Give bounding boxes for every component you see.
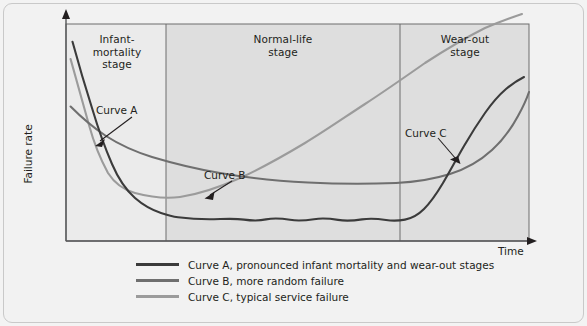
stage-label-wearout-line1: Wear-out <box>409 33 521 46</box>
stage-label-infant-line1: Infant- <box>76 33 158 46</box>
figure-container: Infant- mortality stage Normal-life stag… <box>0 0 587 326</box>
stage-label-normal-line2: stage <box>223 46 343 59</box>
stage-label-normal: Normal-life stage <box>223 33 343 58</box>
stage-label-infant: Infant- mortality stage <box>76 33 158 71</box>
annotation-curve-a: Curve A <box>96 104 138 116</box>
x-axis-label: Time <box>498 245 524 257</box>
y-axis-arrow-icon <box>62 9 70 19</box>
x-axis-arrow-icon <box>527 237 537 245</box>
legend-swatch-curve-a <box>136 263 179 265</box>
annotation-curve-b: Curve B <box>204 169 246 181</box>
legend-item-curve-c: Curve C, typical service failure <box>136 290 536 303</box>
stage-label-wearout: Wear-out stage <box>409 33 521 58</box>
annotation-curve-c: Curve C <box>405 127 447 139</box>
legend-item-curve-b: Curve B, more random failure <box>136 274 536 287</box>
legend-label-curve-b: Curve B, more random failure <box>188 275 344 287</box>
y-axis-label: Failure rate <box>22 108 34 200</box>
chart-legend: Curve A, pronounced infant mortality and… <box>136 258 536 306</box>
stage-label-wearout-line2: stage <box>409 46 521 59</box>
legend-swatch-curve-c <box>136 295 179 297</box>
stage-label-normal-line1: Normal-life <box>223 33 343 46</box>
legend-swatch-curve-b <box>136 279 179 281</box>
stage-label-infant-line2: mortality <box>76 46 158 59</box>
stage-label-infant-line3: stage <box>76 58 158 71</box>
legend-label-curve-a: Curve A, pronounced infant mortality and… <box>188 259 494 271</box>
legend-label-curve-c: Curve C, typical service failure <box>188 291 349 303</box>
legend-item-curve-a: Curve A, pronounced infant mortality and… <box>136 258 536 271</box>
